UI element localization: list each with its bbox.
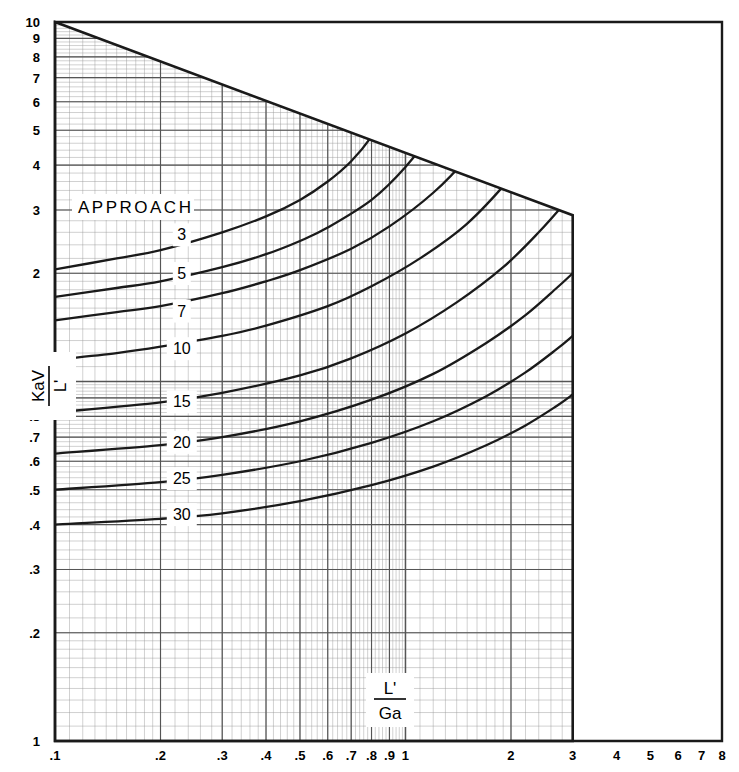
chart-canvas: .1.2.3.4.5.6.7.8.912345678 123456789101.… bbox=[0, 0, 739, 772]
y-tick-lower-p5: .5 bbox=[29, 483, 40, 498]
y-tick-upper-6: 6 bbox=[33, 95, 40, 110]
x-tick-p1: .1 bbox=[50, 748, 61, 763]
curve-label-7: 7 bbox=[177, 303, 186, 320]
y-tick-upper-2: 2 bbox=[33, 266, 40, 281]
y-axis-numerator: KaV bbox=[29, 369, 48, 402]
curve-label-3: 3 bbox=[177, 226, 186, 243]
curve-label-25: 25 bbox=[173, 470, 191, 487]
x-tick-p4: .4 bbox=[261, 748, 273, 763]
y-axis-title: KaV L' bbox=[24, 352, 76, 420]
y-tick-lower-1: 1 bbox=[33, 734, 40, 749]
y-tick-upper-10: 10 bbox=[26, 15, 40, 30]
y-tick-lower-p2: .2 bbox=[29, 626, 40, 641]
chart-background bbox=[0, 0, 739, 772]
x-tick-5: 5 bbox=[647, 748, 654, 763]
x-tick-p6: .6 bbox=[322, 748, 333, 763]
y-axis-denominator: L' bbox=[51, 380, 70, 393]
curve-label-10: 10 bbox=[173, 340, 191, 357]
approach-title-text: APPROACH bbox=[78, 198, 193, 217]
cooling-tower-nomograph: .1.2.3.4.5.6.7.8.912345678 123456789101.… bbox=[0, 0, 739, 772]
x-tick-6: 6 bbox=[675, 748, 682, 763]
curve-label-5: 5 bbox=[177, 265, 186, 282]
x-tick-p7: .7 bbox=[346, 748, 357, 763]
x-tick-2: 2 bbox=[507, 748, 514, 763]
x-tick-1: 1 bbox=[402, 748, 409, 763]
y-tick-upper-7: 7 bbox=[33, 71, 40, 86]
approach-legend-title: APPROACH bbox=[72, 194, 194, 220]
x-axis-numerator: L' bbox=[384, 679, 397, 698]
x-tick-p8: .8 bbox=[366, 748, 377, 763]
x-tick-4: 4 bbox=[613, 748, 621, 763]
curve-label-30: 30 bbox=[173, 506, 191, 523]
x-axis-denominator: Ga bbox=[379, 704, 402, 723]
curve-label-20: 20 bbox=[173, 434, 191, 451]
x-tick-p3: .3 bbox=[217, 748, 228, 763]
x-tick-p2: .2 bbox=[155, 748, 166, 763]
x-tick-p9: .9 bbox=[384, 748, 395, 763]
x-tick-7: 7 bbox=[698, 748, 705, 763]
y-tick-upper-3: 3 bbox=[33, 203, 40, 218]
x-tick-8: 8 bbox=[718, 748, 725, 763]
x-axis-title: L' Ga bbox=[366, 673, 414, 727]
y-tick-upper-5: 5 bbox=[33, 123, 40, 138]
y-tick-upper-8: 8 bbox=[33, 50, 40, 65]
y-tick-lower-p3: .3 bbox=[29, 562, 40, 577]
y-tick-lower-p6: .6 bbox=[29, 454, 40, 469]
y-tick-upper-4: 4 bbox=[33, 158, 41, 173]
y-tick-lower-p4: .4 bbox=[29, 518, 41, 533]
y-tick-lower-p7: .7 bbox=[29, 430, 40, 445]
x-tick-3: 3 bbox=[569, 748, 576, 763]
y-tick-upper-9: 9 bbox=[33, 31, 40, 46]
x-tick-p5: .5 bbox=[295, 748, 306, 763]
curve-label-15: 15 bbox=[173, 393, 191, 410]
